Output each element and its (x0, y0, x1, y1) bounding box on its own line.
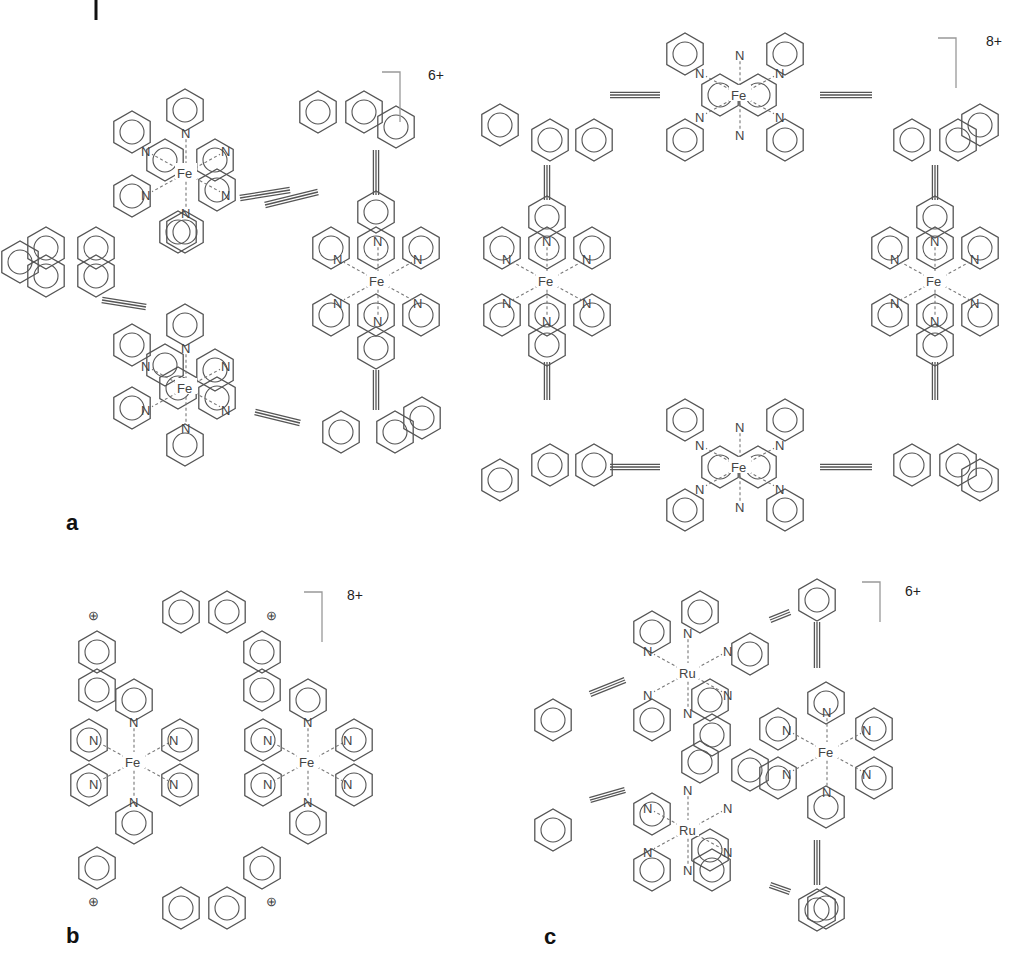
aromatic-ring (482, 459, 518, 501)
metal-center-fe: NNNNNNFe (502, 234, 591, 329)
aromatic-ring (894, 119, 930, 161)
nitrogen-atom: N (169, 777, 178, 792)
alkyne-linker (373, 370, 378, 410)
aromatic-ring (167, 304, 203, 346)
nitrogen-atom: N (89, 733, 98, 748)
chemical-structures-figure: NNNNNNFeNNNNNNFeNNNNNNFeNNNNNNFeNNNNNNFe… (0, 0, 1011, 958)
aromatic-ring (336, 764, 372, 806)
aromatic-ring (767, 399, 803, 441)
aromatic-ring (346, 91, 382, 133)
aromatic-ring (244, 847, 280, 889)
nitrogen-atom: N (643, 801, 652, 816)
aromatic-ring (209, 591, 245, 633)
nitrogen-atom: N (683, 863, 692, 878)
alkyne-linker (820, 92, 872, 97)
nitrogen-atom: N (181, 126, 190, 141)
nitrogen-atom: N (263, 733, 272, 748)
nitrogen-atom: N (782, 767, 791, 782)
cation-charge-icon: ⊕ (88, 894, 99, 909)
metal-symbol: Fe (299, 755, 314, 770)
nitrogen-atom: N (343, 733, 352, 748)
nitrogen-atom: N (735, 128, 744, 143)
aromatic-ring (799, 889, 835, 931)
nitrogen-atom: N (221, 144, 230, 159)
aromatic-ring (244, 631, 280, 673)
aromatic-ring (917, 196, 953, 238)
aromatic-ring (767, 33, 803, 75)
alkyne-linker (820, 464, 872, 469)
aromatic-ring (799, 579, 835, 621)
nitrogen-atom: N (643, 644, 652, 659)
nitrogen-atom: N (695, 482, 704, 497)
nitrogen-atom: N (303, 795, 312, 810)
cation-charge-icon: ⊕ (266, 894, 277, 909)
aromatic-ring (532, 119, 568, 161)
nitrogen-atom: N (373, 234, 382, 249)
nitrogen-atom: N (141, 359, 150, 374)
metal-symbol: Fe (369, 274, 384, 289)
alkyne-linker (254, 409, 300, 425)
nitrogen-atom: N (181, 206, 190, 221)
nitrogen-atom: N (970, 252, 979, 267)
aromatic-ring (576, 119, 612, 161)
aromatic-ring (79, 669, 115, 711)
nitrogen-atom: N (695, 438, 704, 453)
nitrogen-atom: N (542, 234, 551, 249)
charge-bracket-a-right: 8+ (938, 33, 1002, 88)
nitrogen-atom: N (862, 767, 871, 782)
alkyne-linker (932, 362, 937, 400)
aromatic-ring (404, 397, 440, 439)
metal-center-fe: NNNNNNFe (782, 705, 871, 800)
aromatic-ring (535, 809, 571, 851)
metal-center-fe: NNNNNNFe (263, 715, 352, 810)
charge-label: 6+ (905, 583, 921, 599)
nitrogen-atom: N (542, 314, 551, 329)
alkyne-linker (769, 883, 791, 895)
nitrogen-atom: N (890, 296, 899, 311)
nitrogen-atom: N (775, 66, 784, 81)
nitrogen-atom: N (169, 733, 178, 748)
nitrogen-atom: N (129, 795, 138, 810)
nitrogen-atom: N (582, 252, 591, 267)
aromatic-ring (917, 324, 953, 366)
nitrogen-atom: N (643, 845, 652, 860)
nitrogen-atom: N (890, 252, 899, 267)
alkyne-linker (544, 165, 549, 200)
panel-label-b: b (66, 923, 79, 948)
aromatic-ring (160, 211, 196, 253)
nitrogen-atom: N (723, 644, 732, 659)
metal-symbol: Ru (679, 823, 696, 838)
nitrogen-atom: N (221, 403, 230, 418)
charge-label: 8+ (347, 587, 363, 603)
aromatic-ring (162, 764, 198, 806)
nitrogen-atom: N (181, 341, 190, 356)
alkyne-linker (610, 92, 660, 97)
nitrogen-atom: N (683, 783, 692, 798)
aromatic-ring (732, 749, 768, 791)
aromatic-ring (962, 227, 998, 269)
aromatic-ring (667, 119, 703, 161)
aromatic-ring (79, 631, 115, 673)
nitrogen-atom: N (695, 110, 704, 125)
nitrogen-atom: N (775, 482, 784, 497)
metal-symbol: Fe (538, 274, 553, 289)
alkyne-linker (610, 464, 660, 469)
metal-symbol: Fe (125, 755, 140, 770)
aromatic-ring (313, 294, 349, 336)
charge-label: 8+ (986, 33, 1002, 49)
metal-center-fe: NNNNNNFe (141, 341, 230, 436)
aromatic-ring (535, 699, 571, 741)
metal-symbol: Fe (926, 274, 941, 289)
nitrogen-atom: N (413, 296, 422, 311)
alkyne-linker (769, 610, 791, 623)
alkyne-linker (932, 165, 937, 200)
aromatic-ring (529, 196, 565, 238)
charge-bracket-c: 6+ (862, 582, 921, 622)
metal-symbol: Fe (731, 460, 746, 475)
charge-bracket-a-left: 6+ (382, 67, 444, 122)
aromatic-ring (336, 719, 372, 761)
nitrogen-atom: N (735, 48, 744, 63)
aromatic-ring (163, 887, 199, 929)
nitrogen-atom: N (735, 420, 744, 435)
charge-bracket-b: 8+ (304, 587, 363, 642)
